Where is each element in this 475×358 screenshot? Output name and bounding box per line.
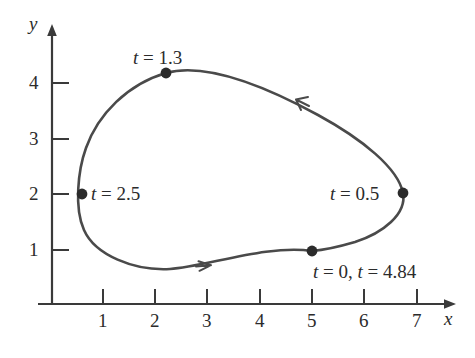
y-tick-label-4: 4 bbox=[29, 73, 39, 92]
y-tick-label-3: 3 bbox=[29, 129, 39, 148]
point-label-value: 0.5 bbox=[356, 183, 380, 204]
x-axis bbox=[38, 289, 456, 309]
y-axis bbox=[47, 24, 69, 304]
x-tick-label-5: 5 bbox=[307, 311, 317, 330]
point-marker-t-1p3[interactable] bbox=[161, 68, 172, 79]
x-tick-label-7: 7 bbox=[412, 311, 422, 330]
x-tick-label-4: 4 bbox=[255, 311, 265, 330]
y-axis-label: y bbox=[29, 14, 37, 33]
point-label-value-2: 4.84 bbox=[383, 261, 416, 282]
parametric-curve-figure: y x 4 3 2 1 1 2 3 4 5 6 7 t = 1.3 t = 2.… bbox=[0, 0, 475, 358]
point-label-eq: = bbox=[318, 261, 338, 282]
point-label-value: 1.3 bbox=[159, 47, 183, 68]
point-label-eq: = bbox=[335, 183, 355, 204]
point-label-t-0p5: t = 0.5 bbox=[330, 184, 379, 203]
point-label-t-0-and-4p84: t = 0, t = 4.84 bbox=[313, 262, 416, 281]
point-marker-t-0-4p84[interactable] bbox=[307, 246, 318, 257]
point-label-eq: = bbox=[138, 47, 158, 68]
plot-canvas bbox=[0, 0, 475, 358]
point-marker-t-0p5[interactable] bbox=[398, 188, 409, 199]
x-tick-label-1: 1 bbox=[98, 311, 108, 330]
point-marker-t-2p5[interactable] bbox=[77, 189, 88, 200]
point-label-eq-2: = bbox=[363, 261, 383, 282]
y-tick-label-1: 1 bbox=[29, 240, 39, 259]
y-tick-label-2: 2 bbox=[29, 184, 39, 203]
x-tick-label-2: 2 bbox=[150, 311, 160, 330]
point-label-t-2p5: t = 2.5 bbox=[91, 184, 140, 203]
x-tick-label-6: 6 bbox=[359, 311, 369, 330]
point-label-eq: = bbox=[96, 183, 116, 204]
point-label-value: 2.5 bbox=[117, 183, 141, 204]
x-axis-label: x bbox=[444, 309, 452, 328]
x-tick-label-3: 3 bbox=[202, 311, 212, 330]
y-axis-arrowhead bbox=[47, 24, 57, 36]
point-label-t-1p3: t = 1.3 bbox=[133, 48, 182, 67]
parametric-curve bbox=[78, 70, 403, 269]
point-label-value: 0, bbox=[339, 261, 358, 282]
